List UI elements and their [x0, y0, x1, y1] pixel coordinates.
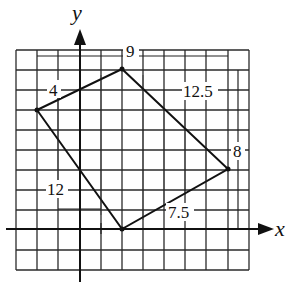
y-axis-arrow-icon [74, 29, 86, 45]
label-right-upper: 12.5 [183, 82, 213, 101]
x-axis-arrow-icon [258, 223, 274, 235]
vertex-left [35, 108, 40, 113]
vertex-top [120, 67, 125, 72]
vertex-right [226, 167, 231, 172]
label-left-height: 4 [49, 81, 58, 100]
label-left-lower: 12 [47, 180, 64, 199]
label-top-width: 9 [126, 42, 135, 61]
label-bottom-right: 7.5 [168, 203, 189, 222]
y-axis-label: y [70, 0, 82, 25]
x-axis-label: x [274, 216, 285, 241]
label-right-height: 8 [233, 142, 242, 161]
quadrilateral-diagram: x y 9 4 12.5 8 12 7.5 [0, 0, 286, 303]
